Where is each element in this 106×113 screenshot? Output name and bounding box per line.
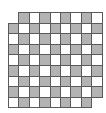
dark-square	[81, 97, 92, 109]
mutilated-checkerboard	[8, 12, 102, 108]
dark-square	[91, 86, 102, 98]
